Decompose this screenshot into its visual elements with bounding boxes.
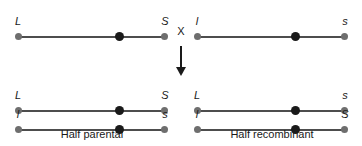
telomere-left-icon <box>15 33 22 40</box>
down-arrow-shaft <box>180 46 182 69</box>
telomere-right-icon <box>341 126 348 133</box>
centromere-icon <box>115 32 124 41</box>
telomere-left-icon <box>194 33 201 40</box>
half-recombinant-caption: Half recombinant <box>230 128 313 140</box>
telomere-right-icon <box>161 33 168 40</box>
recombinant-chromosome-1 <box>197 104 345 118</box>
centromere-icon <box>291 32 300 41</box>
parent-left-allele-label-right: S <box>161 16 168 27</box>
down-arrow-icon <box>176 67 186 76</box>
parent-left-chromosome <box>18 30 165 44</box>
parent-left-allele-label-left: L <box>15 16 21 27</box>
parental-chromosome-1 <box>18 104 165 118</box>
parent-right-chromosome <box>197 30 345 44</box>
chromosome-arm <box>197 110 345 112</box>
parental-chromosome-2-allele-label-right: s <box>162 109 168 120</box>
centromere-icon <box>291 106 300 115</box>
parental-chromosome-2-allele-label-left: l <box>17 109 19 120</box>
half-parental-caption: Half parental <box>61 128 123 140</box>
recombinant-chromosome-1-allele-label-left: L <box>194 90 200 101</box>
parental-chromosome-1-allele-label-left: L <box>15 90 21 101</box>
recombinant-chromosome-2-allele-label-right: S <box>341 109 348 120</box>
parent-right-allele-label-left: l <box>196 16 198 27</box>
telomere-right-icon <box>341 33 348 40</box>
centromere-icon <box>115 106 124 115</box>
genetics-cross-diagram: L S l s X L S l s Half parental L s <box>0 0 362 146</box>
chromosome-arm <box>197 36 345 38</box>
parent-right-allele-label-right: s <box>342 16 348 27</box>
telomere-left-icon <box>15 126 22 133</box>
recombinant-chromosome-1-allele-label-right: s <box>342 90 348 101</box>
cross-symbol: X <box>177 26 184 37</box>
recombinant-chromosome-2-allele-label-left: l <box>196 109 198 120</box>
telomere-left-icon <box>194 126 201 133</box>
chromosome-arm <box>18 36 165 38</box>
chromosome-arm <box>18 110 165 112</box>
telomere-right-icon <box>161 126 168 133</box>
parental-chromosome-1-allele-label-right: S <box>161 90 168 101</box>
